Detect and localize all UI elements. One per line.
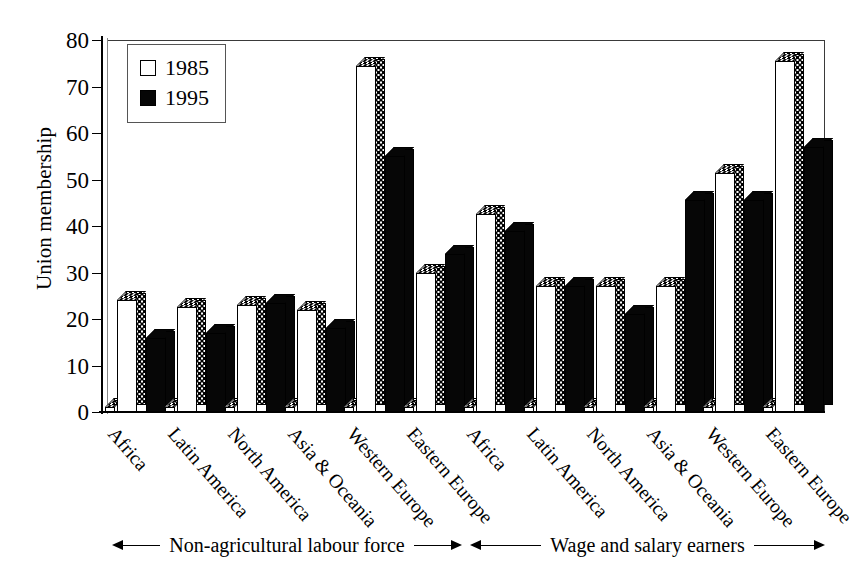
bar-side [645,307,654,405]
bar-1985 [775,61,795,412]
bar-1995 [505,231,525,412]
y-axis-tick-label: 10 [45,354,89,377]
bar-base-stub [344,407,354,412]
bar-base-stub [285,407,295,412]
bar-side [226,326,235,405]
bar-1985 [297,310,317,412]
bar-face [177,307,197,412]
y-axis-tick-mark [92,366,101,367]
bar-side [346,321,355,405]
bar-1995 [206,333,226,412]
bar-1985 [416,273,436,413]
bar-face [266,303,286,412]
bar-base-stub [225,407,235,412]
bar-side [676,279,685,405]
bar-base-stub [644,407,654,412]
y-axis-tick-label: 40 [45,215,89,238]
bar-1985 [476,214,496,412]
bar-1985 [715,173,735,412]
bar-face [285,407,295,412]
bar-base-stub [703,407,713,412]
arrow-left-icon [470,540,481,550]
bar-1985 [536,286,556,412]
bar-1995 [266,303,286,412]
bar-side [616,279,625,405]
bar-side [166,331,175,405]
x-axis-category-label: Africa [463,424,510,474]
bar-face [464,407,474,412]
bar-1985 [656,286,676,412]
bar-face [763,407,773,412]
annotation-rule-left [481,545,541,546]
bar-face [117,300,137,412]
bar-side [197,300,206,405]
bar-side [286,296,295,405]
bar-face [565,286,585,412]
annotation-rule-right [754,545,814,546]
bar-face [105,407,115,412]
bar-face [656,286,676,412]
y-axis-tick-mark [92,226,101,227]
plot-frame-top [107,40,825,41]
legend-label-1995: 1995 [165,87,209,109]
y-axis-tick-label: 60 [45,122,89,145]
y-axis-tick-label: 50 [45,168,89,191]
bar-1995 [326,328,346,412]
legend-item-1995: 1995 [140,83,209,113]
legend-label-1985: 1985 [165,57,209,79]
bar-face [505,231,525,412]
bar-face [685,200,705,412]
bar-1995 [445,254,465,412]
bar-side [556,279,565,405]
bar-1995 [146,338,166,412]
y-axis-tick-mark [92,87,101,88]
bar-face [404,407,414,412]
legend-swatch-icon-1995 [140,90,156,106]
bar-base-stub [464,407,474,412]
bar-base-stub [524,407,534,412]
annotation-rule-left [123,545,160,546]
bar-face [596,286,616,412]
bar-1995 [385,156,405,412]
y-axis-tick-mark [92,180,101,181]
bar-side [795,54,804,405]
arrow-right-icon [814,540,825,550]
plot-area: 01020304050607080 1985 1995 [107,40,825,412]
bar-face [237,305,257,412]
y-axis-tick-mark [92,412,101,413]
bar-face [703,407,713,412]
bar-face [644,407,654,412]
bar-1995 [685,200,705,412]
annotation-rule-right [414,545,451,546]
bar-face [326,328,346,412]
bar-face [536,286,556,412]
bar-face [165,407,175,412]
legend: 1985 1995 [127,44,226,123]
y-axis-tick-mark [92,319,101,320]
y-axis-tick-label: 20 [45,308,89,331]
bar-face [206,333,226,412]
bar-1985 [117,300,137,412]
bar-side [496,207,505,405]
y-axis-line [101,36,103,414]
bar-side [824,140,833,405]
bar-face [625,314,645,412]
bar-1985 [356,66,376,412]
legend-item-1985: 1985 [140,53,209,83]
bar-face [356,66,376,412]
bar-1995 [804,147,824,412]
bar-face [297,310,317,412]
bar-side [317,303,326,405]
bar-side [137,293,146,405]
y-axis-tick-mark [92,273,101,274]
bar-base-stub [105,407,115,412]
y-axis-tick-label: 80 [45,29,89,52]
bar-face [344,407,354,412]
arrow-left-icon [112,540,123,550]
arrow-right-icon [451,540,462,550]
bar-base-stub [584,407,594,412]
bar-side [376,59,385,405]
bar-face [225,407,235,412]
bar-1995 [565,286,585,412]
